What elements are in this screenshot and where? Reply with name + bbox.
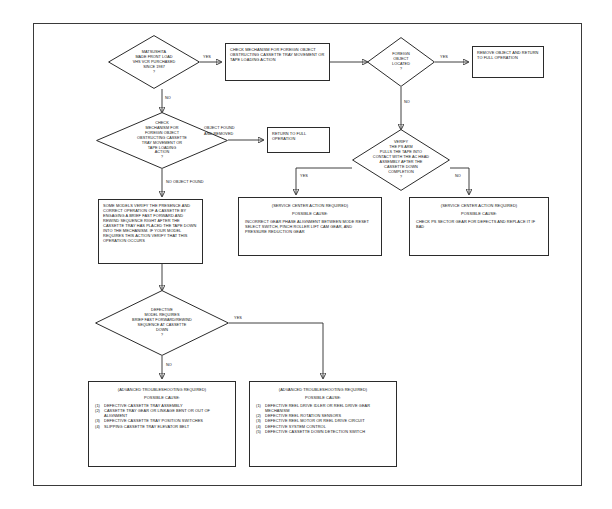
edge-label-d1-no: NO	[165, 96, 171, 100]
decision-verify-ps-arm-tape-contact: VERIFY THE PS ARM PULLS THE TAPE INTO CO…	[352, 129, 450, 191]
decision-label: DEFECTIVE MODEL REQUIRES BRIEF FAST FORW…	[99, 290, 225, 356]
flowchart-canvas: MATSUSHITA MADE FRONT LOAD VHS VCR PURCH…	[0, 0, 612, 509]
edge-label-d3-object-found-line1: OBJECT FOUND	[204, 126, 235, 130]
cause-number: (2)	[95, 408, 104, 418]
cause-list: (1) DEFECTIVE REEL DRIVE IDLER OR REEL D…	[256, 403, 390, 434]
cause-text: DEFECTIVE REEL DRIVE IDLER OR REEL DRIVE…	[265, 403, 390, 413]
edge-label-d2-yes: YES	[440, 55, 448, 59]
result-advanced-troubleshooting-reel-drive: (ADVANCED TROUBLESHOOTING REQUIRED) POSS…	[249, 381, 397, 467]
decision-label: VERIFY THE PS ARM PULLS THE TAPE INTO CO…	[354, 129, 448, 191]
possible-cause-label: POSSIBLE CAUSE:	[416, 211, 542, 216]
decision-label: FOREIGN OBJECT LOCATED ?	[372, 37, 429, 87]
decision-defective-model-fast-forward-rewind: DEFECTIVE MODEL REQUIRES BRIEF FAST FORW…	[95, 290, 229, 356]
result-header: (ADVANCED TROUBLESHOOTING REQUIRED)	[256, 387, 390, 392]
edge-label-d4-no: NO	[455, 174, 461, 178]
decision-matsushita-front-load: MATSUSHITA MADE FRONT LOAD VHS VCR PURCH…	[108, 35, 200, 89]
edge-label-d3-no-object-found: NO OBJECT FOUND	[166, 180, 204, 184]
cause-item: (4) SLIPPING CASSETTE TRAY ELEVATOR BELT	[95, 424, 229, 429]
process-check-mechanism-foreign-object: CHECK MECHANISM FOR FOREIGN OBJECT OBSTR…	[225, 43, 330, 81]
edge-label-d4-yes: YES	[300, 174, 308, 178]
cause-text: CASSETTE TRAY GEAR OR LINKAGE BENT OR OU…	[104, 408, 229, 418]
edge-label-d3-object-found-line2: AND REMOVED	[204, 132, 233, 136]
cause-item: (2) CASSETTE TRAY GEAR OR LINKAGE BENT O…	[95, 408, 229, 418]
process-text: REMOVE OBJECT AND RETURN TO FULL OPERATI…	[477, 50, 539, 60]
possible-cause-label: POSSIBLE CAUSE:	[95, 395, 229, 400]
cause-text: DEFECTIVE CASSETTE DOWN DETECTION SWITCH	[265, 429, 390, 434]
cause-list: (1) DEFECTIVE CASSETTE TRAY ASSEMBLY (2)…	[95, 403, 229, 429]
edge-label-d5-no: NO	[166, 363, 172, 367]
question-mark: ?	[153, 70, 155, 75]
decision-check-mechanism-foreign-object: CHECK MECHANISM FOR FOREIGN OBJECT OBSTR…	[96, 112, 228, 169]
result-header: (ADVANCED TROUBLESHOOTING REQUIRED)	[95, 387, 229, 392]
process-some-models-verify-cassette: SOME MODELS VERIFY THE PRESENCE AND CORR…	[98, 199, 203, 264]
decision-label: CHECK MECHANISM FOR FOREIGN OBJECT OBSTR…	[107, 112, 218, 169]
question-mark: ?	[400, 67, 402, 72]
cause-item: (5) DEFECTIVE CASSETTE DOWN DETECTION SW…	[256, 429, 390, 434]
possible-cause-label: POSSIBLE CAUSE:	[256, 395, 390, 400]
cause-number: (5)	[256, 429, 265, 434]
result-header: (SERVICE CENTER ACTION REQUIRED)	[245, 203, 375, 208]
process-text: SOME MODELS VERIFY THE PRESENCE AND CORR…	[103, 203, 198, 243]
question-mark: ?	[161, 333, 163, 338]
result-service-center-gear-phase-alignment: (SERVICE CENTER ACTION REQUIRED) POSSIBL…	[238, 197, 382, 256]
possible-cause-label: POSSIBLE CAUSE:	[245, 211, 375, 216]
question-mark: ?	[161, 155, 163, 160]
cause-text: SLIPPING CASSETTE TRAY ELEVATOR BELT	[104, 424, 229, 429]
edge-label-d2-no: NO	[404, 100, 410, 104]
result-body: CHECK PS SECTOR GEAR FOR DEFECTS AND REP…	[416, 219, 542, 229]
decision-label: MATSUSHITA MADE FRONT LOAD VHS VCR PURCH…	[115, 35, 192, 89]
result-advanced-troubleshooting-cassette-tray: (ADVANCED TROUBLESHOOTING REQUIRED) POSS…	[88, 381, 236, 467]
process-text: CHECK MECHANISM FOR FOREIGN OBJECT OBSTR…	[230, 47, 325, 62]
process-remove-object-return-full-operation: REMOVE OBJECT AND RETURN TO FULL OPERATI…	[472, 46, 544, 78]
result-header: (SERVICE CENTER ACTION REQUIRED)	[416, 203, 542, 208]
process-return-to-full-operation: RETURN TO FULL OPERATION	[267, 127, 330, 153]
edge-label-d5-yes: YES	[234, 316, 242, 320]
decision-foreign-object-located: FOREIGN OBJECT LOCATED ?	[367, 37, 435, 87]
edge-label-d1-yes: YES	[203, 55, 211, 59]
process-text: RETURN TO FULL OPERATION	[272, 131, 325, 141]
cause-number: (1)	[256, 403, 265, 413]
cause-number: (4)	[95, 424, 104, 429]
cause-item: (1) DEFECTIVE REEL DRIVE IDLER OR REEL D…	[256, 403, 390, 413]
result-body: INCORRECT GEAR PHASE ALIGNMENT BETWEEN M…	[245, 219, 375, 234]
result-service-center-ps-sector-gear: (SERVICE CENTER ACTION REQUIRED) POSSIBL…	[409, 197, 549, 256]
question-mark: ?	[400, 175, 402, 180]
